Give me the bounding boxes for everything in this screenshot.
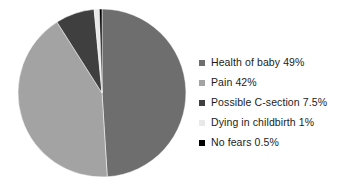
legend-swatch-pain bbox=[199, 80, 205, 86]
legend-label-pain: Pain 42% bbox=[211, 76, 257, 88]
legend-swatch-health-of-baby bbox=[199, 60, 205, 66]
legend-item[interactable]: Dying in childbirth 1% bbox=[199, 114, 344, 130]
legend-label-possible-c-section: Possible C-section 7.5% bbox=[211, 96, 327, 108]
legend-swatch-possible-c-section bbox=[199, 100, 205, 106]
legend-item[interactable]: Pain 42% bbox=[199, 74, 344, 90]
legend-item[interactable]: Possible C-section 7.5% bbox=[199, 94, 344, 110]
pie-slice[interactable] bbox=[102, 9, 186, 177]
legend-item[interactable]: Health of baby 49% bbox=[199, 54, 344, 70]
pie-slice-group bbox=[18, 9, 186, 177]
pie-plot-area bbox=[16, 6, 188, 180]
legend-label-health-of-baby: Health of baby 49% bbox=[211, 56, 304, 68]
legend-swatch-dying-in-childbirth bbox=[199, 120, 205, 126]
legend-item[interactable]: No fears 0.5% bbox=[199, 134, 344, 150]
legend-label-dying-in-childbirth: Dying in childbirth 1% bbox=[211, 116, 314, 128]
legend-swatch-no-fears bbox=[199, 140, 205, 146]
chart-legend: Health of baby 49% Pain 42% Possible C-s… bbox=[199, 54, 344, 154]
pie-chart-figure: Health of baby 49% Pain 42% Possible C-s… bbox=[0, 0, 344, 193]
legend-label-no-fears: No fears 0.5% bbox=[211, 136, 279, 148]
pie-svg bbox=[16, 6, 188, 180]
